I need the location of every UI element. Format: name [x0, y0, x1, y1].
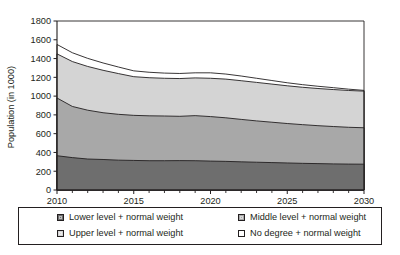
- legend-label-no-degree: No degree + normal weight: [250, 229, 361, 238]
- x-tick-label: 2025: [277, 196, 297, 206]
- legend-swatch-no-degree: [238, 230, 245, 237]
- y-tick-label: 200: [36, 167, 51, 177]
- y-tick-label: 1600: [31, 35, 51, 45]
- legend-label-upper-level: Upper level + normal weight: [69, 229, 183, 238]
- legend-label-lower-level: Lower level + normal weight: [69, 213, 183, 222]
- legend-item-lower-level[interactable]: Lower level + normal weight: [19, 213, 200, 222]
- legend-swatch-middle-level: [238, 214, 245, 221]
- y-tick-label: 1200: [31, 73, 51, 83]
- y-tick-label: 0: [46, 185, 51, 195]
- chart-legend: Lower level + normal weight Middle level…: [18, 207, 382, 245]
- legend-item-middle-level[interactable]: Middle level + normal weight: [200, 213, 381, 222]
- legend-label-middle-level: Middle level + normal weight: [250, 213, 366, 222]
- legend-swatch-lower-level: [57, 214, 64, 221]
- y-tick-label: 800: [36, 110, 51, 120]
- y-tick-label: 400: [36, 148, 51, 158]
- y-axis-title: Population (in 1000): [6, 66, 16, 148]
- y-tick-label: 1800: [31, 16, 51, 26]
- chart-figure: 020040060080010001200140016001800 201020…: [0, 0, 400, 255]
- legend-item-upper-level[interactable]: Upper level + normal weight: [19, 229, 200, 238]
- x-tick-label: 2020: [200, 196, 220, 206]
- legend-swatch-upper-level: [57, 230, 64, 237]
- x-tick-label: 2015: [124, 196, 144, 206]
- y-tick-label: 1400: [31, 54, 51, 64]
- y-tick-label: 600: [36, 129, 51, 139]
- x-tick-label: 2030: [354, 196, 374, 206]
- x-tick-label: 2010: [47, 196, 67, 206]
- legend-item-no-degree[interactable]: No degree + normal weight: [200, 229, 381, 238]
- y-tick-label: 1000: [31, 91, 51, 101]
